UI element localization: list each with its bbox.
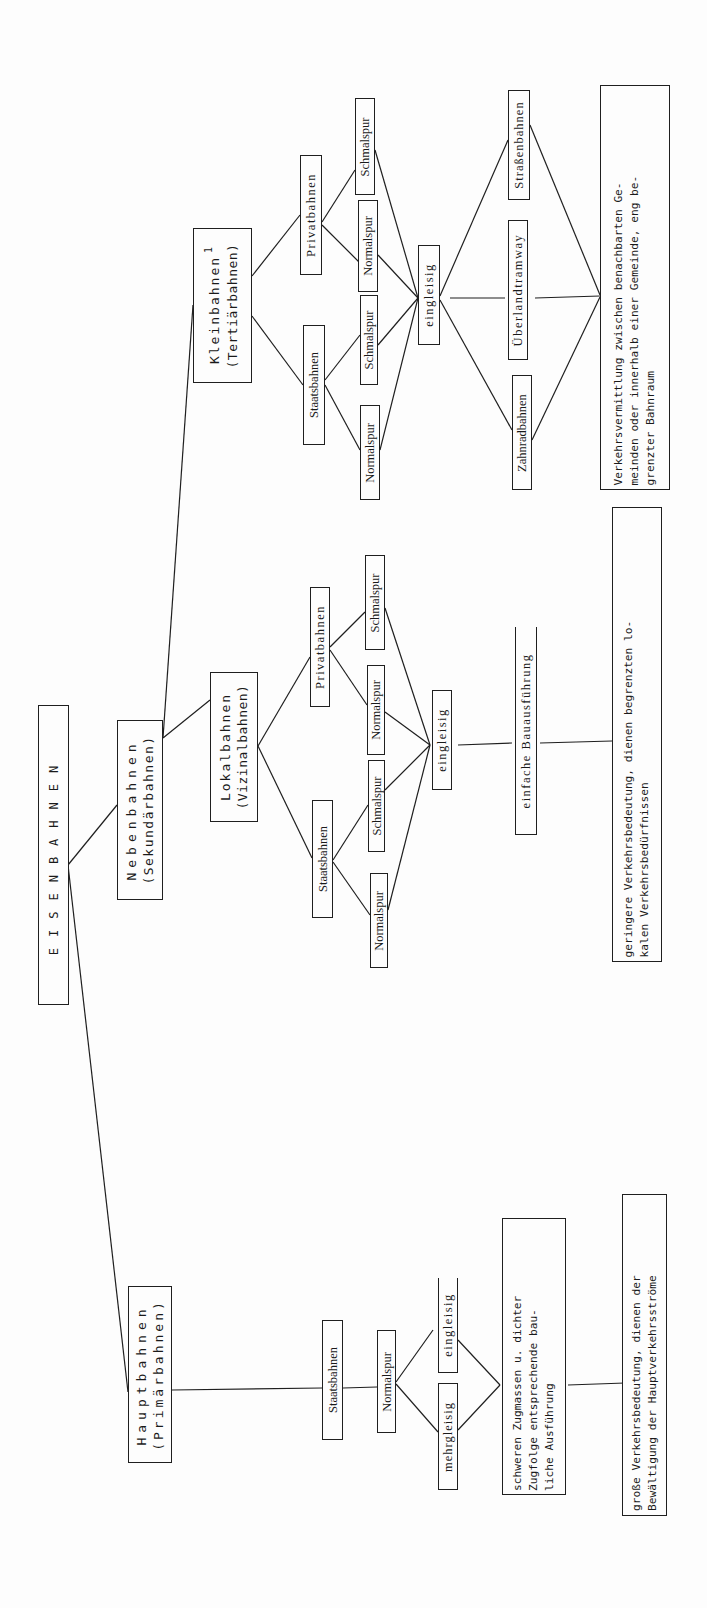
root-title: EISENBAHNEN <box>47 755 61 955</box>
klein-staats-normalspur: Normalspur <box>360 405 380 500</box>
category-alt: (Vizinalbahnen) <box>234 685 251 810</box>
node-label: Zahnradbahnen <box>515 394 530 472</box>
desc-line: kalen Verkehrsbedürfnissen <box>637 512 653 957</box>
category-name: Kleinbahnen <box>206 255 221 363</box>
category-nebenbahnen: Nebenbahnen (Sekundärbahnen) <box>117 720 163 900</box>
haupt-eingleisig: eingleisig <box>438 1278 458 1373</box>
desc-line: große Verkehrsbedeutung, dienen der <box>629 1199 645 1511</box>
klein-description: Verkehrsvermittlung zwischen benachbarte… <box>600 85 670 490</box>
node-label: einfache Bauausführung <box>519 653 534 808</box>
klein-privatbahnen: Privatbahnen <box>300 155 322 275</box>
desc-line: Bewältigung der Hauptverkehrsströme <box>645 1199 661 1511</box>
category-kleinbahnen: Kleinbahnen1 (Tertiärbahnen) <box>193 228 252 383</box>
node-label: Normalspur <box>361 216 376 276</box>
klein-ueberlandtramway: Überlandtramway <box>508 220 528 360</box>
node-label: Schmalspur <box>369 776 384 835</box>
lokal-description: geringere Verkehrsbedeutung, dienen begr… <box>612 507 662 962</box>
railway-classification-diagram: EISENBAHNEN Nebenbahnen (Sekundärbahnen)… <box>0 0 707 1608</box>
haupt-staatsbahnen: Staatsbahnen <box>322 1320 343 1440</box>
node-label: Staatsbahnen <box>307 352 322 418</box>
lokal-privat-schmalspur: Schmalspur <box>365 555 385 650</box>
klein-privat-normalspur: Normalspur <box>358 200 378 292</box>
node-label: Normalspur <box>369 680 384 740</box>
node-label: Staatsbahnen <box>315 826 330 892</box>
klein-privat-schmalspur: Schmalspur <box>355 98 375 195</box>
klein-staatsbahnen: Staatsbahnen <box>303 325 325 445</box>
node-label: Schmalspur <box>362 310 377 369</box>
desc-line: Verkehrsvermittlung zwischen benachbarte… <box>611 90 627 485</box>
haupt-mehrgleisig: mehrgleisig <box>438 1383 458 1490</box>
node-label: Schmalspur <box>368 573 383 632</box>
category-alt: (Sekundärbahnen) <box>140 735 157 884</box>
lokal-staats-normalspur: Normalspur <box>370 873 388 968</box>
category-name: Hauptbahnen <box>133 1299 150 1451</box>
haupt-description: große Verkehrsbedeutung, dienen der Bewä… <box>622 1194 667 1516</box>
lokal-staatsbahnen: Staatsbahnen <box>312 800 333 918</box>
klein-eingleisig: eingleisig <box>418 245 440 345</box>
node-label: mehrgleisig <box>441 1402 456 1472</box>
desc-line: schweren Zugmassen u. dichter <box>510 1223 526 1491</box>
node-label: Normalspur <box>379 1352 394 1412</box>
category-hauptbahnen: Hauptbahnen (Primärbahnen) <box>128 1286 172 1463</box>
lokal-staats-schmalspur: Schmalspur <box>368 760 385 852</box>
haupt-normalspur: Normalspur <box>377 1330 396 1433</box>
desc-line: grenzter Bahnraum <box>643 90 659 485</box>
lokal-einfache-bauausfuehrung: einfache Bauausführung <box>515 627 537 835</box>
footnote-marker: 1 <box>202 244 213 252</box>
node-label: Privatbahnen <box>313 605 328 689</box>
node-label: eingleisig <box>422 263 437 327</box>
lokal-eingleisig: eingleisig <box>432 690 452 790</box>
desc-line: liche Ausführung <box>542 1223 558 1491</box>
klein-zahnradbahnen: Zahnradbahnen <box>512 375 532 490</box>
node-label: Staatsbahnen <box>325 1347 340 1413</box>
node-label: Normalspur <box>363 423 378 483</box>
node-label: Normalspur <box>372 891 387 951</box>
haupt-construction: schweren Zugmassen u. dichter Zugfolge e… <box>502 1218 566 1495</box>
category-alt: (Primärbahnen) <box>150 1299 167 1451</box>
node-label: eingleisig <box>441 1293 456 1357</box>
klein-staats-schmalspur: Schmalspur <box>360 295 378 385</box>
desc-line: geringere Verkehrsbedeutung, dienen begr… <box>621 512 637 957</box>
category-name: Lokalbahnen <box>217 685 234 810</box>
node-label: Privatbahnen <box>304 173 319 257</box>
desc-line: meinden oder innerhalb einer Gemeinde, e… <box>627 90 643 485</box>
root-node-eisenbahnen: EISENBAHNEN <box>38 705 69 1005</box>
node-label: Schmalspur <box>358 117 373 176</box>
desc-line: Zugfolge entsprechende bau- <box>526 1223 542 1491</box>
category-lokalbahnen: Lokalbahnen (Vizinalbahnen) <box>210 672 258 822</box>
node-label: Überlandtramway <box>511 234 526 347</box>
lokal-privatbahnen: Privatbahnen <box>310 587 330 707</box>
node-label: eingleisig <box>435 708 450 772</box>
lokal-privat-normalspur: Normalspur <box>367 665 385 755</box>
category-name: Nebenbahnen <box>123 735 140 884</box>
klein-strassenbahnen: Straßenbahnen <box>508 90 530 200</box>
category-alt: (Tertiärbahnen) <box>223 243 240 368</box>
node-label: Straßenbahnen <box>512 101 527 188</box>
